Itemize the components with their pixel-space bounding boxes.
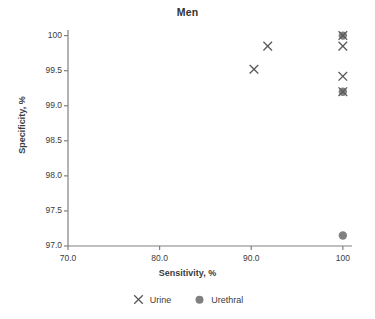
- x-tick-label: 90.0: [231, 253, 271, 263]
- y-tick-label: 97.0: [26, 240, 62, 250]
- data-point-urine: [339, 42, 348, 51]
- data-point-urine: [263, 42, 272, 51]
- x-tick-label: 70.0: [48, 253, 88, 263]
- axis-ticks: [64, 36, 343, 250]
- y-tick-label: 99.0: [26, 100, 62, 110]
- y-tick-label: 98.0: [26, 170, 62, 180]
- data-points: [250, 31, 347, 239]
- chart-legend: Urine Urethral: [0, 293, 375, 306]
- circle-marker-icon: [193, 293, 206, 306]
- x-tick-label: 100: [323, 253, 363, 263]
- legend-item-urethral: Urethral: [193, 293, 243, 306]
- x-tick-label: 80.0: [140, 253, 180, 263]
- axis-lines: [68, 30, 352, 246]
- x-marker-icon: [132, 293, 145, 306]
- y-tick-label: 99.5: [26, 65, 62, 75]
- data-point-urethral: [339, 231, 347, 239]
- legend-label-urethral: Urethral: [211, 295, 243, 305]
- y-tick-label: 97.5: [26, 205, 62, 215]
- y-tick-label: 100: [26, 30, 62, 40]
- legend-item-urine: Urine: [132, 293, 172, 306]
- data-point-urine: [339, 72, 348, 81]
- x-axis-label: Sensitivity, %: [0, 268, 375, 278]
- data-point-urine: [250, 65, 259, 74]
- legend-label-urine: Urine: [150, 295, 172, 305]
- scatter-plot-figure: Men 97.097.598.098.599.099.510070.080.09…: [0, 0, 375, 319]
- y-tick-label: 98.5: [26, 135, 62, 145]
- y-axis-label: Specificity, %: [17, 65, 27, 185]
